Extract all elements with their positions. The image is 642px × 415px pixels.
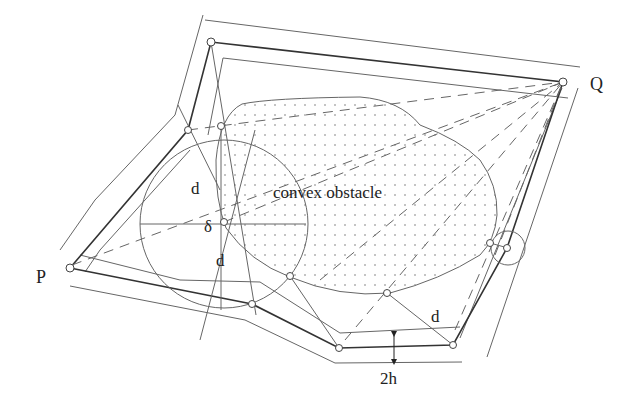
- vertex-right: [504, 245, 511, 252]
- vertex-tangent: [221, 219, 228, 226]
- label-convex-obstacle: convex obstacle: [273, 183, 382, 202]
- vertex-bottom-right: [450, 342, 457, 349]
- vertex-inner-left: [218, 123, 225, 130]
- vertex-right-obstacle: [487, 240, 494, 247]
- vertex-obstacle-bottom: [287, 273, 294, 280]
- label-delta: δ: [204, 217, 212, 236]
- vertex-lower: [249, 301, 256, 308]
- vertex-Q: [559, 78, 567, 86]
- label-d-upper: d: [191, 179, 200, 198]
- label-d-lower: d: [216, 251, 225, 270]
- path-planning-diagram: P Q convex obstacle d δ d d 2h: [0, 0, 642, 415]
- label-P: P: [36, 267, 46, 287]
- label-2h: 2h: [380, 369, 398, 388]
- label-d-right: d: [431, 307, 440, 326]
- vertex-P: [66, 264, 74, 272]
- vertex-bottom-left: [336, 345, 343, 352]
- vertex-left: [185, 127, 192, 134]
- vertex-top-left: [207, 38, 215, 46]
- vertex-obstacle-right: [384, 290, 391, 297]
- label-Q: Q: [590, 74, 603, 94]
